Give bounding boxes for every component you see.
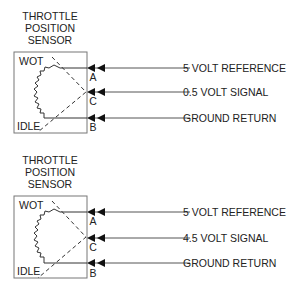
arrow-icon (97, 234, 105, 242)
signal-a-label: 5 VOLT REFERENCE (183, 206, 286, 218)
wot-label: WOT (19, 55, 44, 67)
arrow-icon (87, 259, 95, 267)
idle-label: IDLE (17, 265, 40, 277)
signal-a-label: 5 VOLT REFERENCE (183, 62, 286, 74)
idle-label: IDLE (17, 120, 40, 132)
title-line-3: SENSOR (28, 178, 73, 190)
pin-b-label: B (89, 121, 96, 133)
title-line-3: SENSOR (28, 34, 73, 46)
arrow-icon (97, 88, 105, 96)
title-line-1: THROTTLE (22, 10, 77, 22)
resistor-arc-icon (34, 209, 87, 263)
pin-c-label: C (89, 95, 97, 107)
title-line-1: THROTTLE (22, 154, 77, 166)
arrow-icon (97, 208, 105, 216)
signal-b-label: GROUND RETURN (183, 257, 276, 269)
tps-diagram-wot: THROTTLE POSITION SENSOR WOT IDLE A C B … (14, 154, 286, 279)
pin-c-label: C (89, 241, 97, 253)
wiper-dashed (38, 201, 86, 278)
pin-a-label: A (89, 215, 96, 227)
signal-c-label: 4.5 VOLT SIGNAL (183, 232, 269, 244)
arrow-icon (97, 259, 105, 267)
signal-b-label: GROUND RETURN (183, 112, 276, 124)
resistor-arc-icon (34, 65, 87, 118)
signal-c-label: 0.5 VOLT SIGNAL (183, 86, 269, 98)
pin-b-label: B (89, 267, 96, 279)
tps-diagrams: THROTTLE POSITION SENSOR WOT IDLE A C B … (0, 0, 288, 288)
tps-diagram-idle: THROTTLE POSITION SENSOR WOT IDLE A C B … (14, 10, 286, 133)
arrow-icon (97, 64, 105, 72)
title-line-2: POSITION (25, 22, 75, 34)
title-line-2: POSITION (25, 166, 75, 178)
wot-label: WOT (19, 199, 44, 211)
pin-a-label: A (89, 71, 96, 83)
arrow-icon (97, 114, 105, 122)
